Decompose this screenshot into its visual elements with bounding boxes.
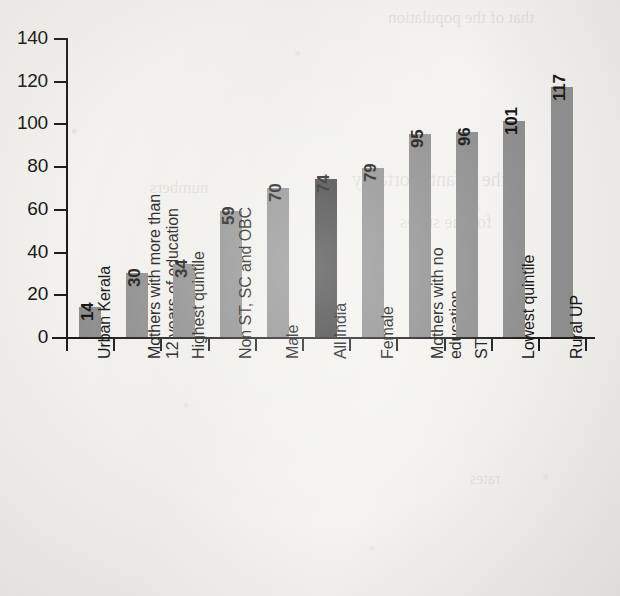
x-axis-category-label: Female (379, 306, 397, 359)
bar-chart: that of the population the infant mortal… (0, 0, 620, 596)
x-axis-category-label: Rural UP (568, 295, 586, 359)
bar-value-label: 79 (361, 164, 381, 183)
y-axis-tick-label: 40 (0, 242, 48, 261)
category-label-line: Female (379, 306, 396, 359)
y-axis-tick (54, 252, 66, 254)
y-axis-tick (54, 209, 66, 211)
y-axis-tick-label: 140 (0, 28, 48, 47)
x-axis-category-label: Male (284, 325, 302, 359)
category-label-line: Highest quintile (190, 251, 207, 359)
bar-value-label: 96 (455, 127, 475, 146)
bar-value-label: 117 (550, 74, 570, 101)
y-axis-tick-label: 20 (0, 284, 48, 303)
bar-value-label: 14 (78, 303, 98, 322)
bar-value-label: 30 (125, 268, 145, 287)
x-axis-tick (255, 337, 257, 351)
y-axis-tick (54, 38, 66, 40)
y-axis-tick-label: 80 (0, 156, 48, 175)
y-axis-tick (54, 123, 66, 125)
bar-value-label: 70 (266, 183, 286, 202)
x-axis-tick (538, 337, 540, 351)
x-axis-category-label: Highest quintile (190, 251, 208, 359)
y-axis-tick (54, 294, 66, 296)
category-label-line: Male (284, 325, 301, 359)
bar-value-label: 34 (172, 260, 192, 279)
category-label-line: ST (473, 339, 490, 359)
bar-value-label: 101 (502, 108, 522, 136)
category-label-line: Urban Kerala (96, 266, 113, 359)
y-axis-tick (54, 166, 66, 168)
bar[interactable] (409, 134, 431, 337)
y-axis-tick (54, 337, 66, 339)
bleed-text-line1: that of the population (388, 8, 534, 28)
x-axis-category-label: ST (473, 339, 491, 359)
y-axis-line (66, 38, 68, 339)
bar-value-label: 95 (408, 130, 428, 149)
bleed-text-line5: rates (470, 470, 500, 488)
x-axis-category-label: All India (332, 303, 350, 359)
y-axis-tick-label: 100 (0, 113, 48, 132)
bar-value-label: 74 (314, 174, 334, 193)
y-axis-tick-label: 0 (0, 327, 48, 346)
x-axis-tick (491, 337, 493, 351)
bar[interactable] (456, 132, 478, 337)
x-axis-category-label: Lowest quintile (520, 255, 538, 359)
category-label-line: Mothers with more than (146, 194, 163, 359)
x-axis-category-label: Non ST, SC and OBC (237, 207, 255, 359)
x-axis-line (52, 337, 595, 339)
category-label-line: Mothers with no (429, 248, 446, 359)
bar[interactable] (267, 188, 289, 338)
x-axis-tick (66, 337, 68, 351)
y-axis-tick-label: 60 (0, 199, 48, 218)
y-axis-tick (54, 81, 66, 83)
category-label-line: Lowest quintile (520, 255, 537, 359)
category-label-line: All India (332, 303, 349, 359)
y-axis-tick-label: 120 (0, 71, 48, 90)
category-label-line: Non ST, SC and OBC (237, 207, 254, 359)
x-axis-tick (302, 337, 304, 351)
category-label-line: Rural UP (568, 295, 585, 359)
x-axis-category-label: Urban Kerala (96, 266, 114, 359)
